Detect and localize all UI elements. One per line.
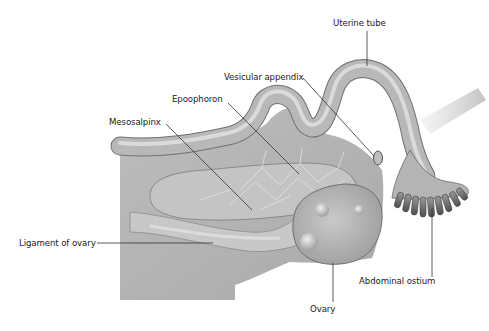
follicle [354, 205, 364, 215]
label-uterine-tube: Uterine tube [333, 19, 386, 28]
label-ovary: Ovary [310, 305, 335, 314]
label-mesosalpinx: Mesosalpinx [109, 118, 161, 127]
label-ligament-of-ovary: Ligament of ovary [19, 239, 96, 248]
vesicular-appendix-shape [374, 151, 383, 165]
label-vesicular-appendix: Vesicular appendix [224, 73, 304, 82]
follicle [315, 203, 329, 217]
vessel-shape [420, 88, 486, 134]
anatomy-diagram: Uterine tube Vesicular appendix Epoophor… [0, 0, 489, 331]
follicle [300, 233, 318, 251]
label-epoophoron: Epoophoron [172, 95, 223, 104]
label-abdominal-ostium: Abdominal ostium [359, 277, 435, 286]
